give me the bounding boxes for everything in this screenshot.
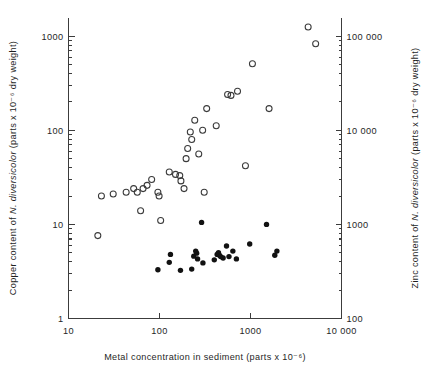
axis-title-prefix: Copper content of [8,214,18,295]
data-point-copper [166,169,172,175]
left-tick-label: 1 [58,314,64,324]
data-point-zinc [194,250,199,255]
left-tick-label: 10 [52,220,63,230]
data-point-copper [313,41,319,47]
data-point-copper [266,106,272,112]
scatter-plot: 1000100101 100 00010 0001000100 10100100… [0,0,430,381]
data-point-zinc [212,257,217,262]
data-point-copper [131,186,137,192]
data-point-zinc [195,256,200,261]
data-point-zinc [199,220,204,225]
data-point-copper [144,182,150,188]
data-point-copper [242,163,248,169]
data-point-copper [235,88,241,94]
right-tick-label: 10 000 [347,126,378,136]
series-copper-open-circles [95,24,319,239]
bottom-tick-label: 100 [151,326,168,336]
data-point-copper [183,156,189,162]
axis-title-species: N. diversicolor [410,157,420,220]
left-axis-title: Copper content of N. diversicolor (parts… [8,41,18,295]
data-point-copper [249,61,255,67]
data-point-copper [140,186,146,192]
data-point-zinc [247,241,252,246]
data-point-zinc [155,267,160,272]
data-point-zinc [189,266,194,271]
right-tick-label: 100 000 [347,32,383,42]
data-point-zinc [178,268,183,273]
data-point-copper [204,106,210,112]
data-point-zinc [264,222,269,227]
data-point-copper [200,127,206,133]
axis-title-prefix: Metal concentration in sediment (parts x… [104,352,306,362]
data-point-copper [187,129,193,135]
data-point-copper [201,189,207,195]
data-point-copper [192,117,198,123]
left-tick-label: 1000 [41,32,63,42]
data-point-zinc [230,248,235,253]
series-zinc-filled-circles [155,220,279,273]
data-point-copper [138,208,144,214]
figure-container: 1000100101 100 00010 0001000100 10100100… [0,0,430,381]
data-point-copper [134,189,140,195]
bottom-tick-label: 10 000 [326,326,357,336]
axis-title-suffix: (parts x 10⁻⁶ dry weight) [410,48,420,158]
data-point-zinc [220,255,225,260]
data-point-copper [155,189,161,195]
data-point-zinc [226,254,231,259]
right-tick-label: 1000 [347,220,369,230]
data-point-copper [181,186,187,192]
data-point-copper [110,191,116,197]
data-point-copper [173,171,179,177]
right-tick-label: 100 [347,314,364,324]
data-point-copper [98,193,104,199]
bottom-tick-label: 1000 [239,326,261,336]
data-point-zinc [168,252,173,257]
data-point-copper [156,193,162,199]
data-point-zinc [274,248,279,253]
right-axis-title: Zinc content of N. diversicolor (parts x… [410,48,420,289]
data-point-zinc [167,260,172,265]
left-tick-label: 100 [47,126,64,136]
bottom-axis-ticks: 10100100010 000 [63,313,357,336]
data-point-copper [213,123,219,129]
data-point-copper [123,189,129,195]
data-point-zinc [234,256,239,261]
axis-title-species: N. diversicolor [8,151,18,214]
data-point-copper [95,233,101,239]
data-point-zinc [200,260,205,265]
data-point-zinc [224,243,229,248]
left-axis-ticks: 1000100101 [41,32,74,324]
plot-axes [69,18,342,319]
data-point-copper [196,151,202,157]
right-axis-ticks: 100 00010 0001000100 [336,32,383,324]
data-point-copper [185,146,191,152]
data-point-copper [305,24,311,30]
axis-title-suffix: (parts x 10⁻⁶ dry weight) [8,41,18,151]
bottom-axis-title: Metal concentration in sediment (parts x… [104,352,306,362]
data-point-copper [149,177,155,183]
bottom-tick-label: 10 [63,326,74,336]
data-point-copper [158,218,164,224]
axis-title-prefix: Zinc content of [410,221,420,289]
data-point-copper [189,136,195,142]
